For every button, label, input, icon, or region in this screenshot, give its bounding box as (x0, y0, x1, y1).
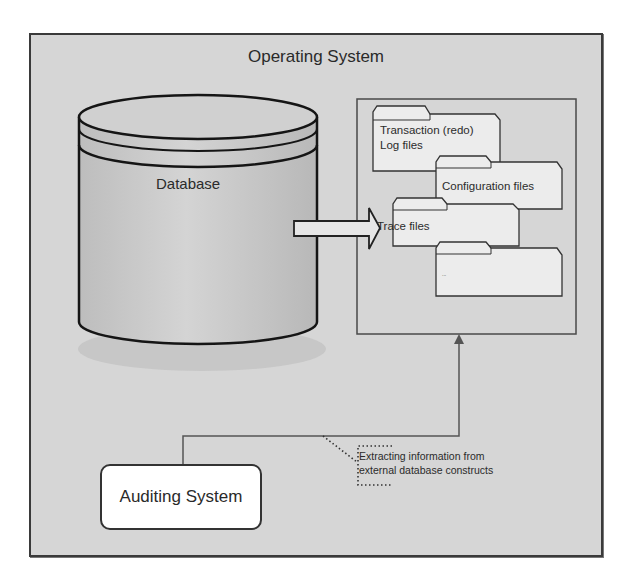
auditing-system-label: Auditing System (120, 487, 243, 507)
callout-line-2: external database constructs (359, 463, 493, 477)
folder-label-more: ... (442, 271, 446, 277)
callout-text: Extracting information from external dat… (359, 449, 493, 477)
callout-line-1: Extracting information from (359, 449, 493, 463)
arrowhead-up-icon (454, 334, 464, 344)
folder-icon-more (436, 242, 562, 296)
database-cylinder-icon (78, 95, 326, 371)
folder-label-transaction-log: Transaction (redo) Log files (380, 123, 490, 153)
folder-label-configuration: Configuration files (442, 180, 534, 192)
database-label: Database (156, 175, 220, 192)
folder-label-trace: Trace files (377, 220, 430, 232)
auditing-system-box: Auditing System (100, 464, 262, 530)
diagram-canvas (0, 0, 632, 587)
